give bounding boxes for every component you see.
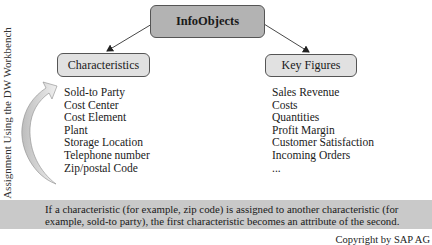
note-text: If a characteristic (for example, zip co…: [45, 203, 425, 227]
list-item: Incoming Orders: [272, 149, 374, 162]
infoobjects-node: InfoObjects: [150, 5, 265, 38]
list-item: Costs: [272, 99, 374, 112]
note-band: If a characteristic (for example, zip co…: [0, 200, 432, 229]
list-item: Cost Element: [64, 111, 150, 124]
list-item: Telephone number: [64, 149, 150, 162]
characteristics-node: Characteristics: [57, 53, 150, 77]
list-item: Zip/postal Code: [64, 162, 150, 175]
list-item: Customer Satisfaction: [272, 136, 374, 149]
side-label: Assignment Using the DW Workbench: [0, 13, 14, 213]
characteristics-label: Characteristics: [68, 58, 139, 73]
list-item: Cost Center: [64, 99, 150, 112]
curved-assignment-arrow-icon: [22, 82, 57, 184]
list-item: Sold-to Party: [64, 86, 150, 99]
note-line-2: example, sold-to party), the first chara…: [45, 215, 399, 227]
list-item: ...: [272, 162, 374, 175]
copyright: Copyright by SAP AG: [336, 234, 430, 245]
list-item: Sales Revenue: [272, 86, 374, 99]
note-line-1: If a characteristic (for example, zip co…: [45, 203, 398, 215]
characteristics-list: Sold-to Party Cost Center Cost Element P…: [64, 86, 150, 174]
key-figures-label: Key Figures: [282, 58, 341, 73]
list-item: Storage Location: [64, 136, 150, 149]
infoobjects-label: InfoObjects: [176, 14, 239, 29]
key-figures-node: Key Figures: [265, 54, 357, 77]
list-item: Profit Margin: [272, 124, 374, 137]
arrow-to-key-figures: [264, 24, 309, 52]
list-item: Quantities: [272, 111, 374, 124]
key-figures-list: Sales Revenue Costs Quantities Profit Ma…: [272, 86, 374, 174]
arrow-to-characteristics: [107, 24, 152, 51]
list-item: Plant: [64, 124, 150, 137]
